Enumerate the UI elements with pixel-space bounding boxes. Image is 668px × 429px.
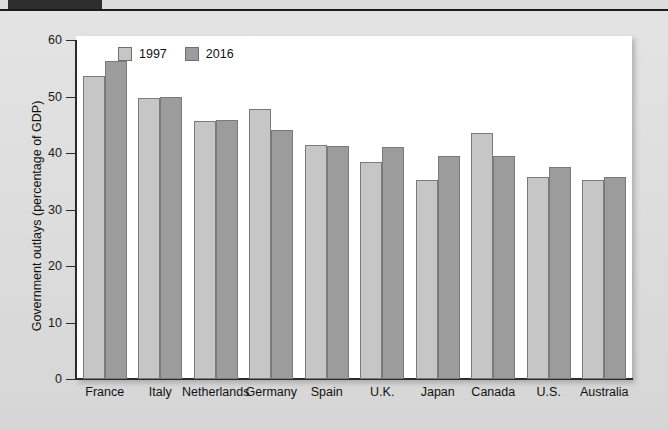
legend-item-1997: 1997 — [118, 47, 167, 61]
y-axis-tick-mark — [66, 323, 75, 324]
chart-legend: 1997 2016 — [118, 47, 234, 61]
plot-area — [76, 36, 632, 380]
legend-label-2016: 2016 — [206, 48, 234, 61]
legend-swatch-2016 — [185, 47, 199, 61]
y-axis-tick-mark — [66, 97, 75, 98]
y-axis-tick-mark — [66, 210, 75, 211]
y-axis-tick-mark — [66, 40, 75, 41]
y-axis-tick-mark — [66, 266, 75, 267]
y-axis-tick-label: 60 — [18, 34, 62, 47]
y-axis-tick-mark — [66, 153, 75, 154]
y-axis-tick-mark — [66, 379, 75, 380]
legend-swatch-1997 — [118, 47, 132, 61]
header-strip — [0, 0, 668, 9]
legend-item-2016: 2016 — [185, 47, 234, 61]
legend-label-1997: 1997 — [139, 48, 167, 61]
y-axis-title: Government outlays (percentage of GDP) — [30, 51, 44, 381]
x-axis-line — [75, 378, 633, 380]
